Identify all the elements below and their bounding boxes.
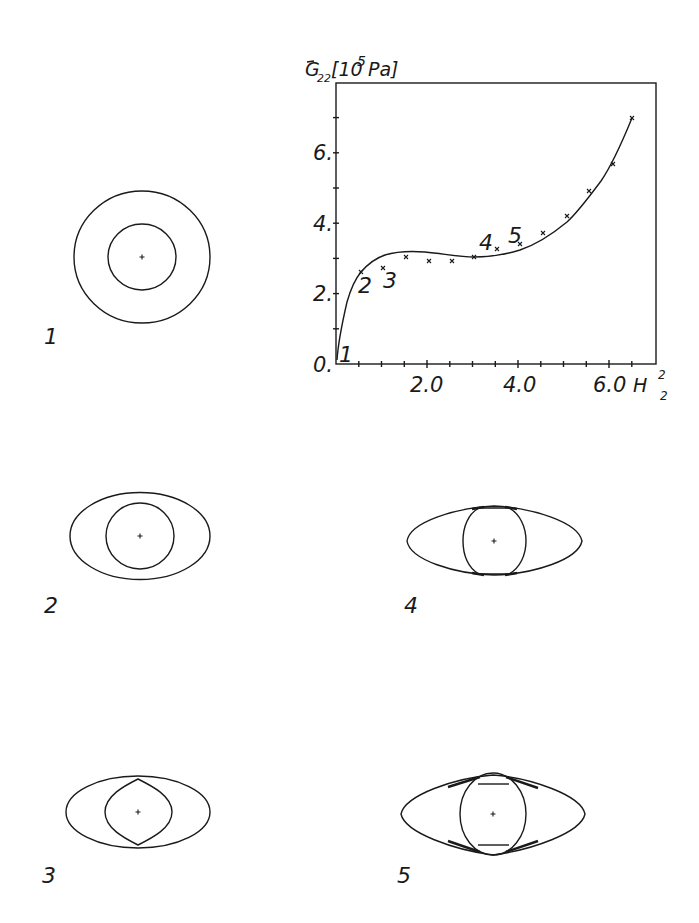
y-tick-label-0: 0. bbox=[313, 353, 333, 377]
center-mark-icon bbox=[491, 812, 496, 817]
point-annotation-1: 1 bbox=[339, 342, 353, 367]
x-axis-subscript: 2 bbox=[660, 389, 668, 403]
figure-canvas: 0. 2. 4. 6. 2.0 4.0 6.0 G 22 [10 5 Pa] H… bbox=[0, 0, 699, 923]
x-tick-label-4: 4.0 bbox=[503, 373, 536, 397]
shape-5 bbox=[401, 773, 585, 855]
panel-label-3: 3 bbox=[42, 863, 56, 888]
chart: 0. 2. 4. 6. 2.0 4.0 6.0 G 22 [10 5 Pa] H… bbox=[305, 53, 668, 403]
panel-label-1: 1 bbox=[44, 324, 58, 349]
point-annotation-3: 3 bbox=[383, 268, 397, 293]
y-axis-subscript: 22 bbox=[317, 72, 331, 85]
y-axis-exponent: 5 bbox=[357, 53, 366, 69]
y-tick-label-6: 6. bbox=[313, 141, 333, 165]
x-axis-symbol: H bbox=[633, 374, 647, 396]
chart-frame bbox=[336, 83, 656, 364]
center-mark-icon bbox=[492, 539, 497, 544]
x-tick-label-6: 6.0 bbox=[593, 373, 626, 397]
shape-1 bbox=[74, 191, 210, 323]
x-tick-label-2: 2.0 bbox=[410, 373, 443, 397]
x-axis-title: H 2 2 bbox=[633, 368, 668, 403]
x-axis-superscript: 2 bbox=[658, 368, 666, 382]
point-annotation-2: 2 bbox=[358, 273, 372, 298]
panel-label-2: 2 bbox=[44, 593, 58, 618]
panel-label-4: 4 bbox=[404, 593, 418, 618]
shape-2 bbox=[70, 493, 210, 580]
tilde-mark bbox=[307, 61, 314, 62]
measured-points bbox=[359, 116, 634, 274]
center-mark-icon bbox=[136, 810, 141, 815]
y-tick-label-4: 4. bbox=[313, 212, 333, 236]
shape-4 bbox=[407, 506, 582, 575]
y-tick-label-2: 2. bbox=[313, 282, 333, 306]
center-mark-icon bbox=[138, 534, 143, 539]
y-axis-title: G 22 [10 5 Pa] bbox=[305, 53, 399, 85]
center-mark-icon bbox=[140, 255, 145, 260]
point-annotation-4: 4 bbox=[479, 230, 493, 255]
point-annotation-5: 5 bbox=[508, 223, 522, 248]
y-axis-unit: Pa] bbox=[368, 58, 399, 80]
shape-3 bbox=[66, 776, 210, 848]
panel-label-5: 5 bbox=[397, 863, 411, 888]
